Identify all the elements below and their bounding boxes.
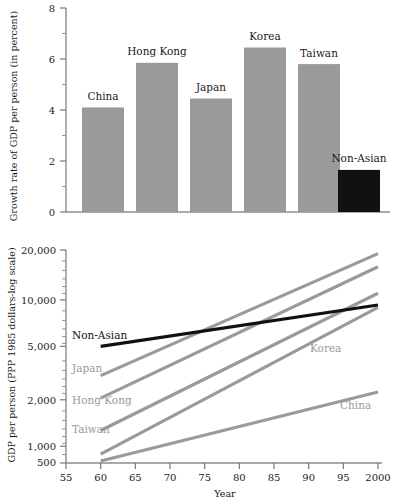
bar-chart-ylabel: Growth rate of GDP per person (in percen… — [8, 11, 19, 221]
line-xtick-90: 90 — [302, 472, 315, 483]
line-chart-x-ticks — [66, 463, 378, 469]
line-xtick-70: 70 — [164, 472, 177, 483]
bar-korea[interactable] — [244, 48, 286, 212]
series-line-non-asian[interactable] — [101, 305, 378, 346]
bar-label-korea: Korea — [249, 30, 280, 42]
bar-chart-bar-labels: China Hong Kong Japan Korea Taiwan Non-A… — [87, 30, 386, 164]
figure-root: Growth rate of GDP per person (in percen… — [0, 0, 395, 501]
bar-ytick-6: 6 — [49, 54, 55, 65]
bar-chart-bars — [82, 48, 380, 212]
series-line-korea[interactable] — [101, 307, 378, 454]
bar-label-china: China — [87, 90, 118, 102]
series-label-taiwan: Taiwan — [72, 423, 110, 435]
line-chart-series — [101, 254, 378, 461]
line-xtick-95: 95 — [337, 472, 350, 483]
bar-chart-panel: Growth rate of GDP per person (in percen… — [0, 0, 395, 232]
line-chart-xlabel: Year — [213, 488, 236, 499]
line-chart-panel: GDP per person (PPP 1985 dollars-log sca… — [0, 235, 395, 501]
bar-label-japan: Japan — [195, 81, 226, 93]
bar-chart-ytick-labels: 8 6 4 2 0 — [49, 3, 55, 218]
bar-non-asian[interactable] — [338, 170, 380, 212]
bar-ytick-2: 2 — [49, 156, 55, 167]
bar-taiwan[interactable] — [298, 64, 340, 212]
line-chart-xtick-labels: 55 60 65 70 75 80 85 90 95 2000 — [60, 472, 391, 483]
line-chart-ytick-labels: 20,000 10,000 5,000 2,000 1,000 500 — [21, 245, 56, 468]
line-ytick-10000: 10,000 — [21, 295, 56, 306]
line-xtick-60: 60 — [94, 472, 107, 483]
series-label-japan: Japan — [71, 362, 102, 374]
bar-china[interactable] — [82, 107, 124, 212]
line-chart-ylabel: GDP per person (PPP 1985 dollars-log sca… — [6, 247, 17, 462]
bar-chart-major-ticks — [60, 8, 66, 212]
bar-label-non-asian: Non-Asian — [331, 152, 386, 164]
bar-label-hong-kong: Hong Kong — [127, 45, 187, 57]
bar-label-taiwan: Taiwan — [300, 47, 338, 59]
series-label-non-asian: Non-Asian — [72, 329, 127, 341]
bar-japan[interactable] — [190, 99, 232, 212]
series-line-china[interactable] — [101, 392, 378, 461]
line-ytick-1000: 1,000 — [27, 441, 56, 452]
line-chart-svg: GDP per person (PPP 1985 dollars-log sca… — [0, 235, 395, 501]
bar-ytick-8: 8 — [49, 3, 55, 14]
bar-ytick-4: 4 — [49, 105, 55, 116]
series-label-korea: Korea — [310, 342, 341, 354]
series-line-hong-kong[interactable] — [101, 267, 378, 398]
line-ytick-2000: 2,000 — [27, 395, 56, 406]
bar-chart-svg: Growth rate of GDP per person (in percen… — [0, 0, 395, 232]
series-label-hong-kong: Hong Kong — [72, 394, 132, 406]
line-xtick-80: 80 — [233, 472, 246, 483]
line-xtick-85: 85 — [268, 472, 281, 483]
line-xtick-2000: 2000 — [365, 472, 390, 483]
line-chart-y-major-ticks — [60, 250, 66, 463]
series-label-china: China — [340, 399, 371, 411]
line-xtick-75: 75 — [198, 472, 211, 483]
bar-ytick-0: 0 — [49, 207, 55, 218]
line-xtick-55: 55 — [60, 472, 73, 483]
line-ytick-5000: 5,000 — [27, 341, 56, 352]
line-xtick-65: 65 — [129, 472, 142, 483]
bar-hong-kong[interactable] — [136, 63, 178, 212]
line-ytick-20000: 20,000 — [21, 245, 56, 256]
line-ytick-500: 500 — [37, 457, 56, 468]
